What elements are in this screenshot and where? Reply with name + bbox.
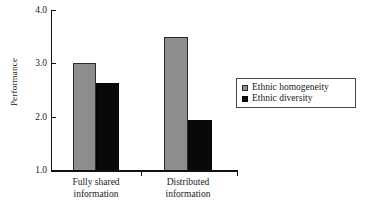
black-square-icon: [242, 96, 248, 102]
bar-diversity-distributed: [188, 120, 212, 171]
y-tick-label-2: 2.0: [13, 112, 47, 122]
chart-legend: Ethnic homogeneity Ethnic diversity: [236, 78, 356, 108]
y-tick-mark-2: [51, 117, 56, 118]
legend-item-diversity: Ethnic diversity: [242, 93, 351, 104]
bar-chart-figure: Performance 4.0 3.0 2.0 1.0 Fully shared…: [0, 0, 366, 207]
x-group-label-distributed: Distributed information: [138, 177, 238, 200]
legend-label-diversity: Ethnic diversity: [252, 93, 312, 104]
y-tick-mark-3: [51, 63, 56, 64]
y-tick-label-4: 4.0: [13, 5, 47, 15]
x-group-label-line-1: Fully shared: [46, 177, 146, 189]
x-tick-mark-mid: [141, 171, 142, 176]
bar-homogeneity-fully-shared: [73, 63, 96, 171]
y-tick-mark-4: [51, 10, 56, 11]
y-tick-label-3: 3.0: [13, 58, 47, 68]
bar-homogeneity-distributed: [164, 37, 188, 171]
x-axis-line: [51, 170, 238, 172]
x-group-label-line-2: information: [46, 189, 146, 201]
legend-item-homogeneity: Ethnic homogeneity: [242, 82, 351, 93]
gray-square-icon: [242, 85, 248, 91]
y-tick-label-1: 1.0: [13, 165, 47, 175]
x-tick-mark-end: [237, 171, 238, 176]
bar-diversity-fully-shared: [96, 83, 119, 171]
x-group-label-line-1: Distributed: [138, 177, 238, 189]
x-group-label-fully-shared: Fully shared information: [46, 177, 146, 200]
x-group-label-line-2: information: [138, 189, 238, 201]
legend-label-homogeneity: Ethnic homogeneity: [252, 82, 329, 93]
y-axis-line: [51, 10, 52, 171]
